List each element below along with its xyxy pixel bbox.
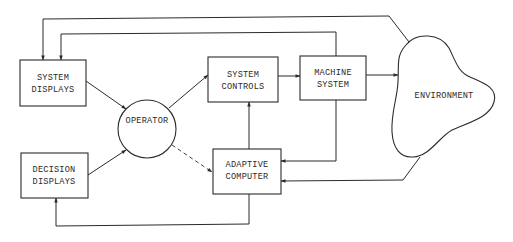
environment-label: ENVIRONMENT <box>415 91 474 101</box>
edge-operator-to-controls <box>169 75 208 108</box>
adaptive-computer-label-2: COMPUTER <box>226 172 269 182</box>
system-controls-label-2: CONTROLS <box>222 82 265 92</box>
machine-system-label-2: SYSTEM <box>317 80 349 90</box>
edge-machine-to-system-displays <box>61 32 336 60</box>
adaptive-computer-label-1: ADAPTIVE <box>226 160 269 170</box>
edge-operator-to-adaptive-dashed <box>172 145 212 172</box>
system-displays-label-2: DISPLAYS <box>32 85 75 95</box>
diagram-canvas: SYSTEM DISPLAYS DECISION DISPLAYS OPERAT… <box>0 0 513 242</box>
decision-displays-label-1: DECISION <box>33 165 76 175</box>
decision-displays-label-2: DISPLAYS <box>33 177 76 187</box>
node-adaptive-computer: ADAPTIVE COMPUTER <box>213 149 281 194</box>
node-environment: ENVIRONMENT <box>392 36 495 157</box>
system-controls-label-1: SYSTEM <box>227 70 259 80</box>
system-displays-label-1: SYSTEM <box>37 73 69 83</box>
machine-system-label-1: MACHINE <box>314 68 352 78</box>
node-system-displays: SYSTEM DISPLAYS <box>20 60 86 106</box>
node-system-controls: SYSTEM CONTROLS <box>208 57 278 102</box>
edge-machine-to-adaptive <box>281 100 336 161</box>
node-decision-displays: DECISION DISPLAYS <box>21 153 88 198</box>
edge-decision-displays-to-operator <box>88 150 126 175</box>
edge-environment-to-system-displays <box>43 16 409 60</box>
node-machine-system: MACHINE SYSTEM <box>300 56 366 100</box>
edge-system-displays-to-operator <box>86 81 126 109</box>
edge-adaptive-to-decision-displays <box>56 194 249 226</box>
node-operator: OPERATOR <box>118 100 176 158</box>
operator-label: OPERATOR <box>126 116 169 126</box>
